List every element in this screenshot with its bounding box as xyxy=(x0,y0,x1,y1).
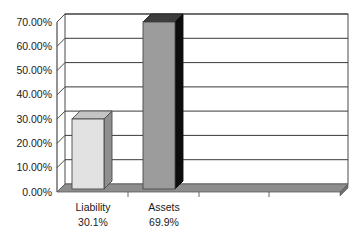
category-value-liability: 30.1% xyxy=(78,216,108,228)
y-axis-tick-label-50: 50.00% xyxy=(16,64,52,76)
category-label-assets: Assets xyxy=(148,201,180,213)
bar-liability[interactable] xyxy=(72,111,112,189)
y-axis-tick-label-20: 20.00% xyxy=(16,137,52,149)
y-axis-tick-label-0: 0.00% xyxy=(22,186,52,198)
bar-chart: 70.00% 60.00% 50.00% 40.00% 30.00% 20.00… xyxy=(0,0,361,235)
bar-liability-front xyxy=(72,119,104,189)
bar-assets[interactable] xyxy=(143,14,183,189)
category-label-liability: Liability xyxy=(75,201,111,213)
y-axis-tick-label-30: 30.00% xyxy=(16,113,52,125)
bar-liability-side xyxy=(104,111,112,189)
category-value-assets: 69.9% xyxy=(149,216,179,228)
y-axis-tick-label-40: 40.00% xyxy=(16,88,52,100)
bar-assets-side xyxy=(175,14,183,189)
y-axis-tick-label-10: 10.00% xyxy=(16,161,52,173)
chart-canvas: 70.00% 60.00% 50.00% 40.00% 30.00% 20.00… xyxy=(0,0,361,235)
bar-assets-front xyxy=(143,22,175,189)
y-axis-tick-label-60: 60.00% xyxy=(16,40,52,52)
y-axis-tick-label-70: 70.00% xyxy=(16,16,52,28)
